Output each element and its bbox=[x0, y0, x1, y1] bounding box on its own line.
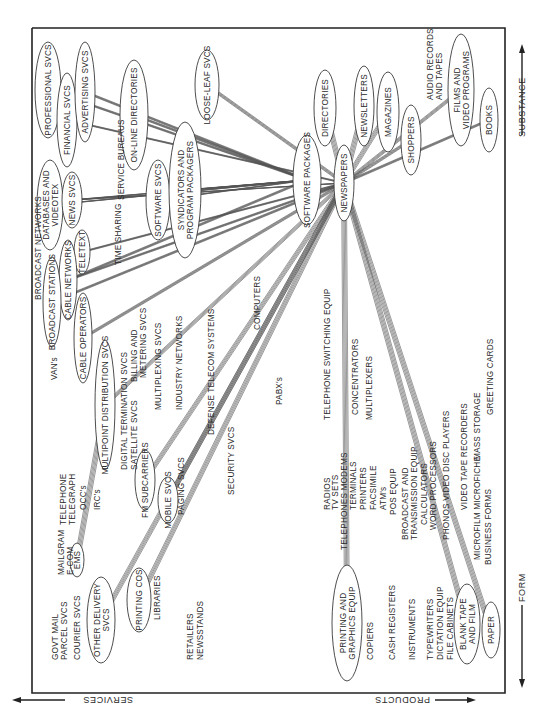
node-label: SHOPPERS bbox=[407, 116, 416, 163]
connection-line bbox=[140, 183, 345, 600]
label-metering: METERING SVCS bbox=[139, 307, 148, 378]
label-typewriters: TYPEWRITERS bbox=[426, 598, 435, 660]
label-digital-termination: DIGITAL TERMINATION SVCS bbox=[120, 351, 129, 470]
label-and-tapes: AND TAPES bbox=[435, 52, 444, 100]
label-transmission: TRANSMISSION EQUIP bbox=[410, 446, 419, 540]
node-label: PRINTING AND bbox=[339, 593, 348, 654]
label-industry-networks: INDUSTRY NETWORKS bbox=[175, 315, 184, 410]
node-directories: DIRECTORIES bbox=[314, 70, 336, 146]
node-newspapers: NEWSPAPERS bbox=[334, 145, 354, 221]
node-label: PAPER bbox=[487, 616, 496, 644]
node-other-delivery: OTHER DELIVERYSVCS bbox=[87, 577, 115, 663]
label-calculators: CALCULATORS bbox=[420, 463, 429, 525]
arrow-right-icon bbox=[467, 697, 476, 703]
node-label: ON-LINE DIRECTORIES bbox=[130, 67, 139, 162]
label-ircs: IRC's bbox=[93, 489, 102, 510]
label-multiplexers: MULTIPLEXERS bbox=[365, 356, 374, 420]
node-paper: PAPER bbox=[482, 602, 500, 658]
connection-line bbox=[343, 183, 466, 624]
node-multipoint: MULTIPOINT DISTRIBUTION SVCS bbox=[95, 335, 115, 474]
node-advertising: ADVERTISING SVCS bbox=[75, 42, 95, 142]
label-time-sharing: TIME SHARING bbox=[114, 203, 123, 265]
label-pos-equip: POS EQUIP bbox=[389, 468, 398, 515]
axis-label-substance: SUBSTANCE bbox=[517, 77, 527, 137]
label-mass-storage: MASS STORAGE bbox=[473, 392, 482, 460]
node-printing-cos: PRINTING COS bbox=[127, 568, 151, 632]
label-printers: PRINTERS bbox=[359, 467, 368, 510]
label-facsimile: FACSIMILE bbox=[369, 465, 378, 510]
node-label: SOFTWARE SVCS bbox=[154, 163, 163, 237]
label-file-cabinets: FILE CABINETS bbox=[446, 597, 455, 660]
node-software-svcs: SOFTWARE SVCS bbox=[146, 160, 170, 240]
node-printing-equip: PRINTING ANDGRAPHICS EQUIP bbox=[332, 565, 362, 681]
node-software-packages: SOFTWARE PACKAGES bbox=[293, 132, 321, 229]
node-label: VIDEO PROGRAMS bbox=[462, 51, 471, 130]
information-business-map: PROFESSIONAL SVCSFINANCIAL SVCSADVERTISI… bbox=[0, 0, 534, 719]
node-label: LOOSE-LEAF SVCS bbox=[203, 45, 212, 124]
label-broadcast-networks: BROADCAST NETWORKS bbox=[34, 196, 43, 300]
label-phonos: PHONOS VIDEO DISC PLAYERS bbox=[442, 410, 451, 540]
label-terminals: TERMINALS bbox=[349, 461, 358, 510]
node-magazines: MAGAZINES bbox=[377, 72, 399, 152]
label-greeting-cards: GREETING CARDS bbox=[486, 338, 495, 415]
label-telephones-modems: TELEPHONES MODEMS bbox=[340, 452, 349, 550]
label-telegraph: TELEGRAPH bbox=[68, 474, 77, 525]
node-label: SOFTWARE PACKAGES bbox=[303, 132, 312, 229]
node-label: OTHER DELIVERY bbox=[93, 583, 102, 657]
node-cable-networks: CABLE NETWORKS bbox=[59, 240, 77, 320]
label-atms: ATM's bbox=[379, 487, 388, 510]
node-syndicators: SYNDICATORS ANDPROGRAM PACKAGERS bbox=[169, 122, 201, 258]
label-satellite: SATELLITE SVCS bbox=[130, 400, 139, 470]
node-label: MAGAZINES bbox=[384, 87, 393, 137]
label-defense: DEFENSE TELECOM SYSTEMS bbox=[207, 308, 216, 435]
node-ellipses: PROFESSIONAL SVCSFINANCIAL SVCSADVERTISI… bbox=[35, 34, 500, 681]
label-courier: COURIER SVCS bbox=[73, 595, 82, 660]
label-pabx: PABX's bbox=[275, 377, 284, 405]
label-instruments: INSTRUMENTS bbox=[408, 598, 417, 660]
arrow-left-icon bbox=[12, 697, 21, 703]
label-word-processors: WORD PROCESSORS bbox=[429, 441, 438, 530]
connection-line bbox=[187, 180, 309, 190]
label-multiplexing: MULTIPLEXING SVCS bbox=[154, 322, 163, 410]
label-e-com: E-COM bbox=[66, 547, 75, 575]
label-retailers: RETAILERS bbox=[186, 613, 195, 660]
node-label: AND FILM bbox=[468, 604, 477, 644]
node-label: CABLE OPERATORS bbox=[79, 296, 88, 379]
node-label: MOBILE SVCS bbox=[164, 471, 173, 529]
node-label: BROADCAST STATIONS bbox=[48, 253, 57, 350]
label-telephone-switching: TELEPHONE SWITCHING EQUIP bbox=[323, 288, 332, 420]
connection-line bbox=[141, 183, 346, 600]
label-vans: VAN's bbox=[50, 357, 59, 380]
node-label: FILMS AND bbox=[453, 67, 462, 112]
label-broadcast-and: BROADCAST AND bbox=[401, 467, 410, 540]
node-label: DIRECTORIES bbox=[321, 79, 330, 137]
label-libraries: LIBRARIES bbox=[153, 575, 162, 620]
node-label: GRAPHICS EQUIP bbox=[348, 586, 357, 660]
label-cash-registers: CASH REGISTERS bbox=[388, 585, 397, 660]
connection-line bbox=[103, 183, 346, 620]
node-label: PROFESSIONAL SVCS bbox=[44, 44, 53, 136]
label-occs: OCC's bbox=[79, 485, 88, 510]
connection-lines bbox=[46, 85, 494, 630]
axis-form: FORM bbox=[517, 573, 527, 688]
label-audio-records: AUDIO RECORDS bbox=[426, 28, 435, 100]
connection-line bbox=[344, 183, 467, 624]
node-label: NEWSLETTERS bbox=[360, 74, 369, 138]
axis-services: SERVICES bbox=[12, 695, 133, 705]
node-newsletters: NEWSLETTERS bbox=[354, 66, 374, 146]
node-books: BOOKS bbox=[480, 88, 498, 152]
label-telephone: TELEPHONE bbox=[59, 473, 68, 525]
node-label: NEWSPAPERS bbox=[340, 153, 349, 213]
node-shoppers: SHOPPERS bbox=[401, 105, 421, 175]
node-label: SYNDICATORS AND bbox=[177, 150, 186, 231]
node-label: MULTIPOINT DISTRIBUTION SVCS bbox=[101, 335, 110, 474]
node-label: BOOKS bbox=[485, 105, 494, 135]
node-loose-leaf: LOOSE-LEAF SVCS bbox=[195, 45, 219, 124]
label-parcel: PARCEL SVCS bbox=[60, 601, 69, 660]
node-news-svcs: NEWS SVCS bbox=[62, 172, 82, 228]
arrow-down-icon bbox=[519, 679, 525, 688]
label-billing: BILLING AND bbox=[130, 329, 139, 382]
node-label: TELETEXT bbox=[78, 230, 87, 273]
arrow-up-icon bbox=[519, 44, 525, 53]
label-govt-mail: GOVT MAIL bbox=[51, 614, 60, 660]
